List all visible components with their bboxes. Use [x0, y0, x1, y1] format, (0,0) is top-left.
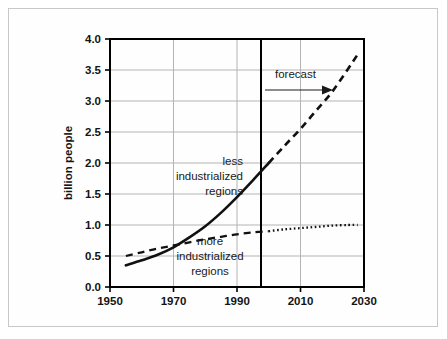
y-tick-label: 0.5 — [85, 250, 102, 262]
y-tick-label: 4.0 — [85, 33, 101, 45]
y-tick-label: 1.5 — [85, 188, 102, 200]
x-tick-label: 1950 — [97, 295, 123, 307]
y-tick-label: 0.0 — [85, 281, 101, 293]
y-tick-label: 3.0 — [85, 95, 101, 107]
y-tick-label: 2.5 — [85, 126, 102, 138]
y-axis-tick-labels: 0.00.51.01.52.02.53.03.54.0 — [85, 33, 102, 293]
y-tick-label: 3.5 — [85, 64, 102, 76]
less-industrialized-label-line3: regions — [205, 185, 243, 197]
more-industrialized-label-line1: more — [197, 235, 223, 247]
x-axis-tick-labels: 19501970199020102030 — [97, 295, 377, 307]
x-tick-label: 2010 — [288, 295, 314, 307]
more-industrialized-label-line2: industrialized — [176, 250, 243, 262]
more-industrialized-annotation: more industrialized regions — [176, 235, 243, 277]
x-tick-label: 1970 — [161, 295, 187, 307]
less-industrialized-annotation: less industrialized regions — [176, 155, 243, 197]
chart-figure: 0.00.51.01.52.02.53.03.54.0 195019701990… — [0, 0, 447, 339]
population-line-chart: 0.00.51.01.52.02.53.03.54.0 195019701990… — [0, 0, 447, 339]
less-industrialized-label-line1: less — [223, 155, 244, 167]
forecast-arrow-head — [322, 86, 333, 95]
forecast-annotation: forecast — [265, 68, 333, 95]
y-tick-label: 2.0 — [85, 157, 101, 169]
forecast-label: forecast — [275, 68, 317, 80]
more-industrialized-forecast-line — [269, 225, 358, 231]
x-tick-label: 2030 — [351, 295, 377, 307]
x-tick-label: 1990 — [224, 295, 250, 307]
more-industrialized-label-line3: regions — [191, 265, 229, 277]
less-industrialized-label-line2: industrialized — [176, 170, 243, 182]
y-tick-label: 1.0 — [85, 219, 101, 231]
y-axis-title: billion people — [62, 126, 74, 200]
